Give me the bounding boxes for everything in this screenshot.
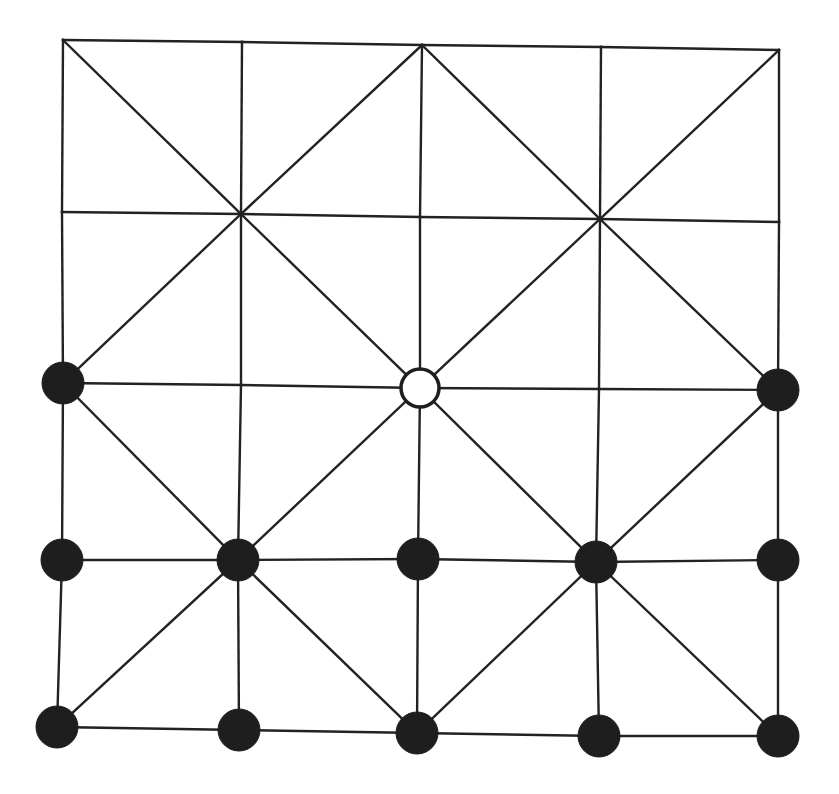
board-line-horizontal [239, 730, 417, 733]
board-line-horizontal [418, 559, 596, 562]
board-intersection-r2-c1[interactable] [227, 371, 255, 399]
board-line-vertical [596, 562, 599, 736]
black-piece[interactable] [217, 539, 259, 581]
board-line-horizontal [596, 560, 778, 562]
board-line-vertical [238, 385, 241, 560]
board-line-horizontal [422, 45, 601, 47]
board-intersection-r0-c0[interactable] [49, 26, 77, 54]
board-line-diagonal [241, 214, 420, 388]
black-piece[interactable] [575, 541, 617, 583]
board-line-diagonal [420, 388, 596, 562]
board-intersection-r0-c3[interactable] [587, 33, 615, 61]
black-piece[interactable] [42, 362, 84, 404]
board-line-horizontal [420, 388, 599, 389]
board-intersection-r1-c1[interactable] [227, 200, 255, 228]
board-intersection-r2-c3[interactable] [585, 375, 613, 403]
board-line-vertical [600, 47, 601, 219]
board-svg [0, 0, 839, 794]
black-piece[interactable] [578, 715, 620, 757]
board-line-diagonal [63, 214, 241, 383]
board-line-vertical [418, 388, 420, 559]
board-line-vertical [417, 559, 418, 733]
board-line-vertical [62, 212, 63, 383]
board-line-horizontal [63, 383, 241, 385]
board-line-vertical [241, 42, 242, 214]
board-line-vertical [62, 383, 63, 560]
game-board [0, 0, 839, 794]
board-intersection-r0-c1[interactable] [228, 28, 256, 56]
board-line-horizontal [241, 385, 420, 388]
board-line-diagonal [420, 219, 600, 388]
black-piece[interactable] [36, 706, 78, 748]
board-line-diagonal [63, 40, 241, 214]
board-line-vertical [778, 222, 779, 390]
board-line-vertical [599, 219, 600, 389]
board-line-diagonal [57, 560, 238, 727]
board-line-horizontal [420, 217, 600, 219]
board-line-diagonal [596, 562, 778, 736]
board-line-vertical [57, 560, 62, 727]
board-line-diagonal [63, 383, 238, 560]
board-line-diagonal [600, 50, 779, 219]
board-line-horizontal [600, 219, 779, 222]
board-intersection-r0-c2[interactable] [408, 31, 436, 59]
board-line-diagonal [417, 562, 596, 733]
board-line-vertical [238, 560, 239, 730]
board-line-diagonal [238, 388, 420, 560]
board-line-diagonal [238, 560, 417, 733]
board-line-diagonal [241, 45, 422, 214]
board-line-diagonal [600, 219, 778, 390]
board-intersection-r0-c4[interactable] [765, 36, 793, 64]
board-line-horizontal [238, 559, 418, 560]
board-line-vertical [420, 45, 422, 217]
board-line-horizontal [601, 47, 779, 50]
board-intersection-r1-c4[interactable] [765, 208, 793, 236]
black-piece[interactable] [757, 539, 799, 581]
board-line-horizontal [242, 42, 422, 45]
board-intersection-r1-c2[interactable] [406, 203, 434, 231]
board-line-horizontal [57, 727, 239, 730]
board-line-horizontal [417, 733, 599, 736]
black-piece[interactable] [397, 538, 439, 580]
black-piece[interactable] [757, 369, 799, 411]
board-intersection-r1-c3[interactable] [586, 205, 614, 233]
board-line-diagonal [596, 390, 778, 562]
board-line-horizontal [63, 40, 242, 42]
black-piece[interactable] [396, 712, 438, 754]
board-line-vertical [596, 389, 599, 562]
board-line-vertical [62, 40, 63, 212]
board-line-diagonal [422, 45, 600, 219]
black-piece[interactable] [41, 539, 83, 581]
board-line-horizontal [241, 214, 420, 217]
white-piece[interactable] [401, 369, 439, 407]
board-line-horizontal [599, 389, 778, 390]
black-piece[interactable] [218, 709, 260, 751]
black-piece[interactable] [757, 715, 799, 757]
board-line-horizontal [62, 212, 241, 214]
board-intersection-r1-c0[interactable] [48, 198, 76, 226]
